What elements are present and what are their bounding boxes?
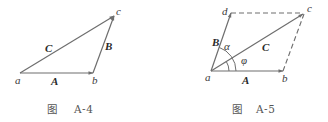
vector-label-a4-C: C <box>45 42 53 54</box>
point-label-a5-c: c <box>307 2 312 14</box>
caption-prefix-a5: 图 <box>232 103 243 115</box>
caption-number-a4: A-4 <box>73 103 93 115</box>
point-label-a5-a: a <box>205 71 211 83</box>
vector-label-a5-C: C <box>262 41 270 53</box>
vector-label-a5-B: B <box>211 36 219 48</box>
point-label-a4-b: b <box>92 74 98 86</box>
point-label-a5-d: d <box>222 5 228 17</box>
vector-label-a5-A: A <box>241 74 249 86</box>
dashed-edge-b-c <box>283 14 304 71</box>
angle-label-phi: φ <box>241 54 247 66</box>
figure-a5: α φ a b c d A B C 图 A-5 <box>205 2 312 115</box>
caption-prefix-a4: 图 <box>47 103 58 115</box>
caption-number-a5: A-5 <box>255 103 275 115</box>
angle-label-alpha: α <box>224 40 230 52</box>
point-label-a4-a: a <box>15 74 21 86</box>
point-label-a5-b: b <box>282 72 288 84</box>
vector-label-a4-A: A <box>50 75 58 87</box>
figure-a4: a b c A B C 图 A-4 <box>15 5 121 115</box>
vector-label-a4-B: B <box>104 40 112 52</box>
point-label-a4-c: c <box>116 5 121 17</box>
figure-canvas: a b c A B C 图 A-4 α φ a b c d A B C 图 A-… <box>0 0 328 122</box>
angle-arc-phi <box>226 62 229 72</box>
vector-a4-C <box>20 16 114 73</box>
